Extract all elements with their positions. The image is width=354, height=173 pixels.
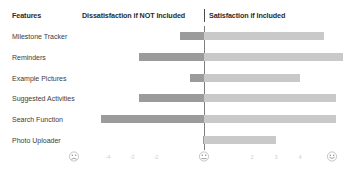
bar-dissatisfaction bbox=[180, 32, 204, 40]
chart-row: Suggested Activities bbox=[0, 88, 354, 109]
feature-label: Photo Uploader bbox=[12, 136, 61, 143]
bar-dissatisfaction bbox=[190, 74, 204, 82]
smiling-face-icon bbox=[327, 151, 338, 162]
bar-dissatisfaction bbox=[139, 94, 204, 102]
chart-row: Reminders bbox=[0, 47, 354, 68]
chart-row: Photo Uploader bbox=[0, 129, 354, 150]
feature-label: Suggested Activities bbox=[12, 95, 75, 102]
chart-row: Search Function bbox=[0, 109, 354, 130]
feature-label: Example Pictures bbox=[12, 74, 66, 81]
feature-label: Milestone Tracker bbox=[12, 33, 67, 40]
bar-satisfaction bbox=[204, 136, 276, 144]
bar-satisfaction bbox=[204, 94, 336, 102]
x-axis-ticks: -4-3-2234 bbox=[0, 150, 354, 173]
header-divider bbox=[204, 9, 205, 22]
plot-area: Milestone TrackerRemindersExample Pictur… bbox=[0, 26, 354, 150]
axis-tick-label: -2 bbox=[154, 154, 159, 160]
axis-tick-label: 2 bbox=[250, 154, 253, 160]
bar-satisfaction bbox=[204, 53, 343, 61]
bar-dissatisfaction bbox=[101, 115, 204, 123]
axis-tick-label: 3 bbox=[274, 154, 277, 160]
kano-feature-chart: Features Dissatisfaction if NOT Included… bbox=[0, 0, 354, 173]
column-header-dissatisfaction: Dissatisfaction if NOT Included bbox=[82, 11, 185, 20]
axis-tick-label: -3 bbox=[130, 154, 135, 160]
feature-label: Search Function bbox=[12, 115, 63, 122]
bar-satisfaction bbox=[204, 74, 300, 82]
bar-dissatisfaction bbox=[139, 53, 204, 61]
bar-satisfaction bbox=[204, 115, 336, 123]
column-header-features: Features bbox=[12, 11, 41, 20]
chart-row: Example Pictures bbox=[0, 67, 354, 88]
axis-tick-label: -4 bbox=[106, 154, 111, 160]
frowning-face-icon bbox=[69, 151, 80, 162]
bar-satisfaction bbox=[204, 32, 324, 40]
chart-row: Milestone Tracker bbox=[0, 26, 354, 47]
column-header-satisfaction: Satisfaction if Included bbox=[209, 11, 285, 20]
feature-label: Reminders bbox=[12, 53, 46, 60]
neutral-face-icon bbox=[199, 151, 210, 162]
axis-tick-label: 4 bbox=[298, 154, 301, 160]
